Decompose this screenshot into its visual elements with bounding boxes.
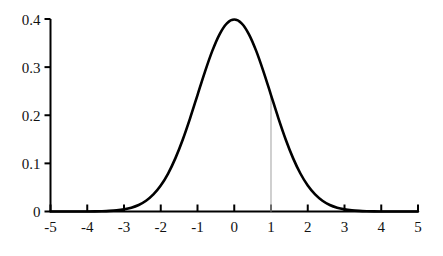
- x-tick-label: 2: [304, 219, 312, 235]
- x-tick-label: 4: [378, 219, 386, 235]
- x-tick-label: 3: [341, 219, 349, 235]
- x-tick-label: 0: [231, 219, 239, 235]
- x-tick-label: -4: [81, 219, 94, 235]
- y-tick-label: 0.2: [22, 108, 41, 124]
- x-tick-label: -2: [155, 219, 168, 235]
- y-tick-label: 0.4: [22, 12, 41, 28]
- x-tick-label: -5: [44, 219, 57, 235]
- x-tick-label: 1: [267, 219, 275, 235]
- normal-distribution-plot: 00.10.20.30.4 -5-4-3-2-1012345: [0, 0, 443, 256]
- x-tick-label: -3: [118, 219, 131, 235]
- y-tick-label: 0.1: [22, 156, 41, 172]
- x-tick-label: 5: [414, 219, 422, 235]
- chart-figure: 00.10.20.30.4 -5-4-3-2-1012345: [0, 0, 443, 256]
- x-tick-label: -1: [191, 219, 204, 235]
- y-tick-label: 0.3: [22, 60, 41, 76]
- y-tick-label: 0: [33, 204, 41, 220]
